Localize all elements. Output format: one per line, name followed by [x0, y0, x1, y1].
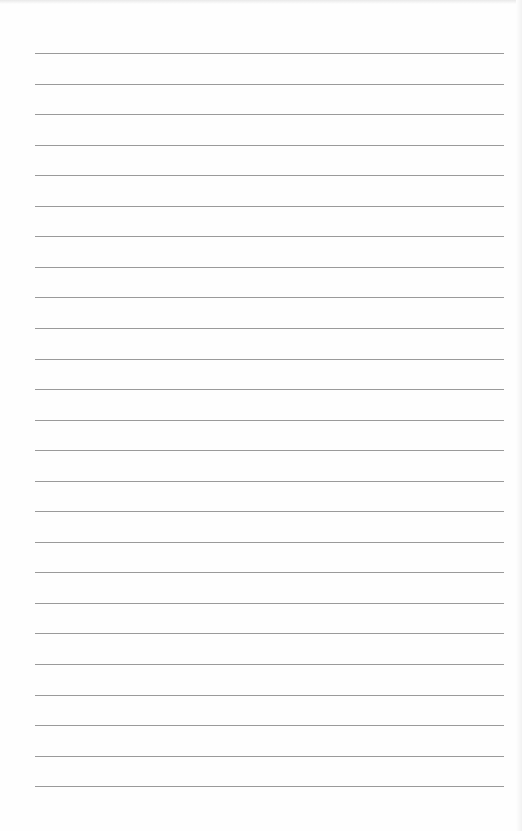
ruled-line	[35, 511, 504, 512]
ruled-line	[35, 267, 504, 268]
ruled-line	[35, 389, 504, 390]
ruled-line	[35, 297, 504, 298]
ruled-line	[35, 572, 504, 573]
ruled-line	[35, 603, 504, 604]
ruled-line	[35, 481, 504, 482]
ruled-line	[35, 236, 504, 237]
ruled-line	[35, 114, 504, 115]
ruled-line	[35, 756, 504, 757]
ruled-line	[35, 786, 504, 787]
ruled-line	[35, 206, 504, 207]
ruled-line	[35, 725, 504, 726]
ruled-line	[35, 695, 504, 696]
ruled-line	[35, 84, 504, 85]
ruled-line	[35, 664, 504, 665]
ruled-line	[35, 633, 504, 634]
paper-top-edge	[0, 0, 522, 4]
ruled-line	[35, 328, 504, 329]
ruled-line	[35, 420, 504, 421]
ruled-line	[35, 450, 504, 451]
ruled-line	[35, 542, 504, 543]
paper-right-edge	[516, 0, 522, 831]
ruled-line	[35, 53, 504, 54]
ruled-line	[35, 175, 504, 176]
ruled-line	[35, 145, 504, 146]
ruled-line	[35, 359, 504, 360]
